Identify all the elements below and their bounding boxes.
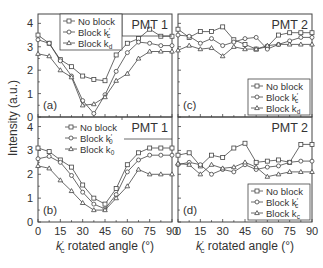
x-axis-label: k′c rotated angle (°) [56, 239, 154, 255]
x-tick-label: 15 [194, 225, 206, 237]
triangle-marker [170, 49, 175, 53]
square-marker [210, 153, 214, 157]
triangle-marker [265, 43, 270, 47]
square-marker [67, 19, 71, 23]
triangle-marker [276, 42, 281, 46]
square-marker [103, 202, 107, 206]
x-tick-label: 0 [175, 225, 181, 237]
figure: 01234PMT 1(a)No blockBlock k′cBlock kd01… [0, 0, 323, 268]
panel-b: 012340153045607590PMT 1(b)No blockBlock … [27, 117, 178, 237]
square-marker [170, 146, 174, 150]
circle-marker [159, 153, 163, 157]
x-tick-label: 15 [54, 225, 66, 237]
triangle-marker [114, 78, 119, 82]
y-tick-label: 2 [27, 64, 33, 76]
legend: No blockBlock k′cBlock kc [248, 184, 310, 220]
square-marker [310, 31, 314, 35]
circle-marker [47, 154, 51, 158]
legend-label: No block [266, 81, 303, 92]
triangle-marker [232, 44, 237, 48]
x-axis-label: k′c rotated angle (°) [196, 239, 294, 255]
triangle-marker [176, 161, 181, 165]
y-tick-label: 0 [27, 216, 33, 228]
circle-marker [81, 190, 85, 194]
circle-marker [47, 41, 51, 45]
triangle-marker [310, 42, 315, 46]
x-tick-label: 45 [99, 225, 111, 237]
square-marker [36, 146, 40, 150]
x-tick-label: 45 [239, 225, 251, 237]
x-tick-label: 30 [217, 225, 229, 237]
square-marker [176, 27, 180, 31]
triangle-marker [176, 48, 181, 52]
square-marker [148, 146, 152, 150]
circle-marker [198, 41, 202, 45]
panel-label: (a) [43, 99, 57, 111]
circle-marker [92, 202, 96, 206]
circle-marker [69, 136, 73, 140]
triangle-marker [220, 166, 225, 170]
triangle-marker [299, 169, 304, 173]
square-marker [277, 33, 281, 37]
x-tick-label: 60 [261, 225, 273, 237]
square-marker [210, 30, 214, 34]
triangle-marker [243, 160, 248, 164]
circle-marker [265, 165, 269, 169]
square-marker [265, 159, 269, 163]
square-marker [243, 42, 247, 46]
legend-label: No block [266, 186, 303, 197]
circle-marker [221, 44, 225, 48]
circle-marker [36, 38, 40, 42]
square-marker [103, 79, 107, 83]
circle-marker [58, 160, 62, 164]
triangle-marker [310, 169, 315, 173]
triangle-marker [36, 51, 41, 55]
circle-marker [255, 95, 259, 99]
square-marker [114, 187, 118, 191]
circle-marker [210, 172, 214, 176]
legend-label: No block [78, 16, 115, 27]
square-marker [255, 189, 259, 193]
triangle-marker [187, 43, 192, 47]
circle-marker [299, 159, 303, 163]
x-tick-label: 75 [284, 225, 296, 237]
triangle-marker [254, 165, 259, 169]
circle-marker [198, 163, 202, 167]
square-marker [310, 142, 314, 146]
legend-label: Block kd [266, 103, 301, 115]
square-marker [299, 142, 303, 146]
triangle-marker [159, 172, 164, 176]
circle-marker [299, 35, 303, 39]
legend: No blockBlock k′cBlock kd [248, 79, 310, 115]
circle-marker [58, 59, 62, 63]
square-marker [70, 165, 74, 169]
square-marker [255, 84, 259, 88]
circle-marker [67, 30, 71, 34]
y-tick-label: 1 [27, 192, 33, 204]
circle-marker [125, 51, 129, 55]
square-marker [36, 33, 40, 37]
circle-marker [243, 37, 247, 41]
circle-marker [210, 37, 214, 41]
circle-marker [232, 170, 236, 174]
circle-marker [137, 158, 141, 162]
square-marker [125, 163, 129, 167]
circle-marker [255, 200, 259, 204]
triangle-marker [209, 162, 214, 166]
y-tick-label: 3 [27, 41, 33, 53]
square-marker [254, 160, 258, 164]
x-tick-label: 0 [35, 225, 41, 237]
triangle-marker [159, 49, 164, 53]
panel-c: PMT 2(c)No blockBlock k′cBlock kd [176, 14, 315, 117]
square-marker [277, 158, 281, 162]
circle-marker [36, 157, 40, 161]
square-marker [243, 141, 247, 145]
circle-marker [170, 44, 174, 48]
circle-marker [254, 35, 258, 39]
circle-marker [170, 153, 174, 157]
square-marker [92, 196, 96, 200]
triangle-marker [136, 56, 141, 60]
circle-marker [125, 170, 129, 174]
circle-marker [310, 35, 314, 39]
square-marker [137, 151, 141, 155]
